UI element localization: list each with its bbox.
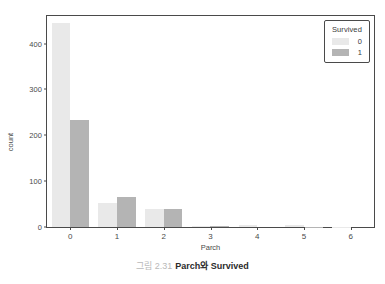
x-tick-label-3: 3 [196, 232, 226, 241]
chart-legend: Survived 0 1 [324, 20, 370, 63]
bar-group-3 [192, 16, 229, 227]
x-tick-mark-0 [70, 227, 71, 230]
x-tick-mark-5 [304, 227, 305, 230]
y-tick-mark-0 [44, 227, 47, 228]
legend-title: Survived [332, 25, 362, 34]
y-tick-mark-400 [44, 43, 47, 44]
bar-3-series-0 [192, 226, 211, 227]
plot-area: Survived 0 1 01234560100200300400 [46, 15, 375, 228]
caption-number: 그림 2.31 [136, 261, 172, 271]
x-tick-mark-6 [351, 227, 352, 230]
bar-group-1 [98, 16, 135, 227]
bar-1-series-1 [117, 197, 136, 227]
y-tick-label-0: 0 [7, 223, 47, 232]
x-tick-label-2: 2 [149, 232, 179, 241]
y-tick-label-400: 400 [7, 39, 47, 48]
bar-1-series-0 [98, 203, 117, 227]
x-tick-label-0: 0 [55, 232, 85, 241]
figure-container: Survived 0 1 01234560100200300400 count … [0, 0, 385, 284]
y-tick-label-100: 100 [7, 177, 47, 186]
y-tick-mark-200 [44, 135, 47, 136]
bar-3-series-1 [210, 226, 229, 227]
legend-item-1: 1 [332, 48, 362, 57]
figure-caption: 그림 2.31Parch와 Survived [0, 259, 385, 272]
x-tick-label-1: 1 [102, 232, 132, 241]
x-tick-mark-1 [117, 227, 118, 230]
y-tick-mark-300 [44, 89, 47, 90]
x-tick-mark-4 [257, 227, 258, 230]
legend-label-1: 1 [358, 48, 362, 57]
x-tick-mark-3 [211, 227, 212, 230]
bar-group-0 [52, 16, 89, 227]
legend-swatch-icon-1 [332, 49, 349, 56]
x-tick-label-6: 6 [336, 232, 366, 241]
x-tick-label-4: 4 [242, 232, 272, 241]
y-tick-label-300: 300 [7, 85, 47, 94]
bar-0-series-0 [52, 23, 71, 227]
y-tick-mark-100 [44, 181, 47, 182]
bar-group-2 [145, 16, 182, 227]
bar-group-5 [285, 16, 322, 227]
x-tick-label-5: 5 [289, 232, 319, 241]
y-axis-label: count [6, 133, 15, 151]
bar-4-series-0 [239, 225, 258, 227]
legend-swatch-icon-0 [332, 38, 349, 45]
legend-label-0: 0 [358, 37, 362, 46]
bar-2-series-0 [145, 209, 164, 227]
bar-group-4 [239, 16, 276, 227]
legend-item-0: 0 [332, 37, 362, 46]
x-axis-label: Parch [46, 243, 375, 252]
bar-2-series-1 [164, 209, 183, 227]
caption-text: Parch와 Survived [175, 261, 249, 271]
bar-0-series-1 [70, 120, 89, 227]
x-tick-mark-2 [164, 227, 165, 230]
bar-5-series-0 [285, 225, 304, 227]
